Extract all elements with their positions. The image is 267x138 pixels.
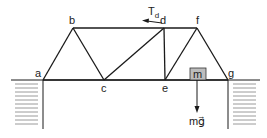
right-support	[228, 80, 256, 129]
truss-diagram: a b c d e f g Td m mg⃗	[0, 0, 267, 138]
member-de	[164, 28, 165, 80]
node-label-e: e	[162, 82, 168, 94]
node-label-g: g	[228, 67, 234, 79]
node-label-a: a	[35, 67, 42, 79]
right-hatching	[233, 84, 256, 124]
weight-label: mg⃗	[189, 115, 205, 127]
node-label-f: f	[196, 14, 200, 26]
node-label-c: c	[101, 82, 107, 94]
left-support	[15, 80, 43, 129]
arrowhead-icon	[142, 19, 149, 24]
member-ab	[43, 28, 73, 80]
arrowhead-icon	[195, 106, 200, 113]
tension-label: Td	[148, 5, 159, 20]
node-label-d: d	[160, 14, 166, 26]
weight-force-arrow	[195, 80, 200, 113]
left-hatching	[15, 84, 38, 124]
member-cd	[104, 28, 164, 80]
mass-label: m	[193, 68, 202, 80]
node-label-b: b	[69, 14, 75, 26]
member-bc	[73, 28, 104, 80]
